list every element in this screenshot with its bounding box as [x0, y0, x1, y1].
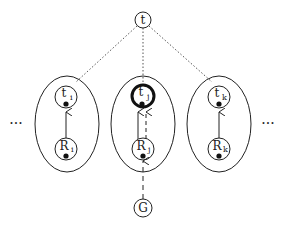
diagram-canvas: t ··· ··· t i R i t j [0, 0, 285, 229]
connector-t-ti [76, 26, 137, 82]
node-r-k-subscript: k [223, 145, 228, 154]
node-t-i-dot [63, 101, 68, 106]
group-j: t j R j [111, 76, 175, 172]
node-t-j-dot [139, 101, 144, 106]
node-r-i: R i [55, 138, 77, 160]
node-t-k-label: t [215, 86, 220, 100]
node-r-i-label: R [59, 139, 69, 153]
node-r-k-label: R [212, 139, 222, 153]
node-t-j: t j [132, 85, 154, 107]
ellipsis-left: ··· [9, 115, 22, 131]
node-t-j-label: t [139, 85, 144, 99]
node-t-i-subscript: i [70, 93, 73, 102]
node-t-j-subscript: j [146, 92, 149, 101]
node-r-j: R j [132, 138, 154, 160]
ellipsis-right: ··· [261, 115, 274, 131]
dotted-connectors [76, 26, 212, 84]
node-r-i-dot [63, 153, 68, 158]
node-t-k: t k [208, 86, 230, 108]
group-i: t i R i [35, 76, 99, 172]
node-r-i-subscript: i [71, 145, 74, 154]
node-r-j-label: R [136, 139, 146, 153]
node-t-i: t i [55, 86, 77, 108]
group-k: t k R k [187, 76, 251, 172]
node-r-j-dot [140, 153, 145, 158]
node-r-k: R k [208, 138, 230, 160]
top-node-t: t [135, 12, 151, 28]
node-t-k-subscript: k [222, 93, 227, 102]
bottom-node-g: G [134, 199, 152, 217]
node-t-i-label: t [62, 86, 67, 100]
node-r-j-subscript: j [147, 145, 150, 154]
bottom-node-label: G [138, 201, 148, 215]
top-node-label: t [141, 13, 146, 27]
node-r-k-dot [216, 153, 221, 158]
connector-t-tk [149, 26, 212, 82]
node-t-k-dot [216, 101, 221, 106]
